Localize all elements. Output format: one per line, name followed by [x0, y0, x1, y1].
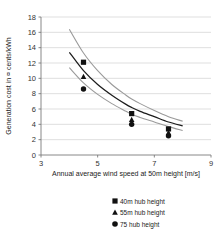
legend-item-label: 55m hub height: [120, 209, 165, 217]
legend-marker-circle: [112, 221, 118, 227]
series-curve-1: [69, 29, 182, 121]
data-point-series-3: [129, 122, 134, 127]
plot-frame: [41, 17, 211, 155]
series-curve-2: [69, 52, 182, 126]
y-axis-tick-label: 10: [28, 74, 36, 83]
gridlines: [41, 17, 211, 140]
y-axis-tick-label: 4: [32, 120, 36, 129]
y-axis-tick-label: 8: [32, 89, 36, 98]
y-axis-tick-label: 16: [28, 28, 36, 37]
data-point-series-3: [166, 133, 171, 138]
legend: 40m hub height55m hub height75 hub heigh…: [112, 198, 165, 229]
data-point-series-1: [81, 60, 86, 65]
generation-cost-vs-wind-speed-chart: 024681012141618 3579 Generation cost in …: [0, 0, 222, 238]
series-markers: [81, 60, 172, 139]
x-axis-tick-label: 9: [209, 159, 213, 168]
x-axis-tick-labels: 3579: [39, 155, 213, 168]
legend-marker-triangle: [112, 209, 118, 214]
data-point-series-2: [129, 117, 135, 122]
y-axis-tick-label: 18: [28, 13, 36, 22]
legend-item-label: 40m hub height: [120, 198, 165, 206]
x-axis-tick-label: 7: [152, 159, 156, 168]
data-point-series-3: [81, 86, 86, 91]
x-axis-tick-label: 5: [96, 159, 100, 168]
data-point-series-2: [81, 74, 87, 79]
legend-item-label: 75 hub height: [120, 221, 160, 229]
legend-marker-square: [112, 198, 117, 203]
series-curves: [69, 29, 182, 130]
x-axis-label: Annual average wind speed at 50m height …: [52, 170, 200, 178]
chart-container: 024681012141618 3579 Generation cost in …: [0, 0, 222, 238]
y-axis-tick-label: 6: [32, 105, 36, 114]
x-axis-tick-label: 3: [39, 159, 43, 168]
y-axis-label: Generation cost in ¤ cents/kWh: [5, 37, 12, 134]
y-axis-tick-labels: 024681012141618: [28, 13, 41, 160]
y-axis-tick-label: 12: [28, 59, 36, 68]
y-axis-tick-label: 0: [32, 151, 36, 160]
y-axis-tick-label: 14: [28, 43, 36, 52]
data-point-series-1: [129, 111, 134, 116]
y-axis-tick-label: 2: [32, 135, 36, 144]
